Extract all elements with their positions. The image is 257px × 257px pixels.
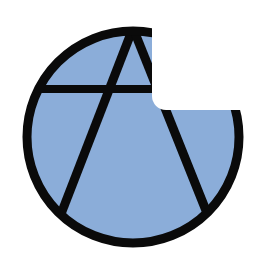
circle-a-icon <box>0 0 257 257</box>
image-canvas: Circled A symbol <box>0 0 257 257</box>
white-occlusion-patch <box>152 0 257 110</box>
